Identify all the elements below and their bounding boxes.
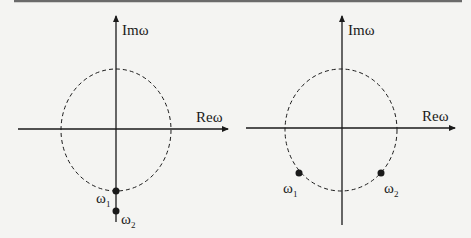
point-omega2 xyxy=(113,208,120,215)
point-omega2 xyxy=(378,170,385,177)
omega2-label: ω2 xyxy=(121,211,135,230)
point-omega1 xyxy=(296,170,303,177)
point-omega1 xyxy=(113,188,120,195)
real-axis-label: Reω xyxy=(422,108,449,124)
real-axis-label: Reω xyxy=(196,109,223,125)
left-panel: Imω Reω ω1 ω2 xyxy=(18,16,228,230)
imag-axis-label: Imω xyxy=(122,22,149,38)
imag-axis-label: Imω xyxy=(348,22,375,38)
omega1-label: ω1 xyxy=(96,190,110,209)
omega1-label: ω1 xyxy=(283,180,297,199)
diagram-canvas: Imω Reω ω1 ω2 Imω Reω ω1 ω2 xyxy=(0,0,471,238)
right-panel: Imω Reω ω1 ω2 xyxy=(246,16,455,225)
omega2-label: ω2 xyxy=(384,180,398,199)
